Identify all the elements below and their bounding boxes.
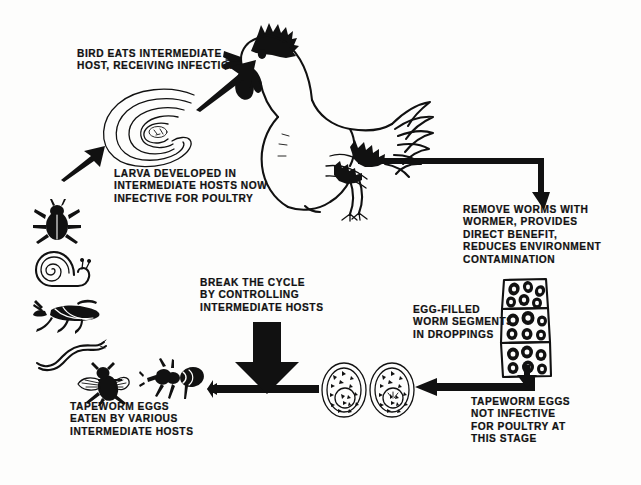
coiled-tapeworm-larva-illustration (98, 86, 208, 171)
tapeworm-life-cycle-diagram: BIRD EATS INTERMEDIATE HOST, RECEIVING I… (0, 0, 641, 485)
snail-illustration (36, 249, 94, 289)
ant-illustration (139, 358, 205, 400)
arrow-bird-to-wormer (358, 152, 550, 212)
egg-filled-worm-segments-illustration (497, 277, 557, 379)
caption-tapeworm-eggs-eaten: TAPEWORM EGGS EATEN BY VARIOUS INTERMEDI… (70, 401, 193, 438)
arrow-break-the-cycle (231, 322, 303, 394)
tapeworm-eggs-illustration (318, 362, 418, 418)
arrow-larva-to-bird (196, 60, 260, 112)
beetle-illustration (33, 199, 81, 245)
caption-remove-worms-with-wormer: REMOVE WORMS WITH WORMER, PROVIDES DIREC… (463, 204, 601, 266)
caption-break-the-cycle: BREAK THE CYCLE BY CONTROLLING INTERMEDI… (200, 277, 323, 314)
arrow-hosts-to-larva (61, 146, 107, 182)
host-connector-line (98, 379, 122, 381)
housefly-illustration (78, 362, 130, 406)
grasshopper-illustration (33, 298, 103, 334)
arrow-wormer-to-segments (513, 365, 541, 389)
